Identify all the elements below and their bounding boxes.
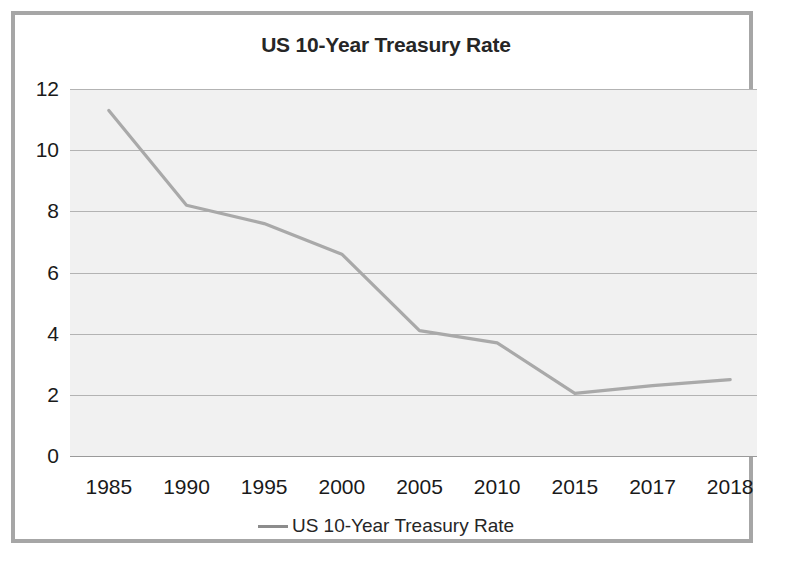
scanned-page: US 10-Year Treasury Rate 024681012 19851… bbox=[0, 0, 787, 567]
plot-area bbox=[70, 89, 769, 456]
x-axis-label-1990: 1990 bbox=[163, 475, 210, 499]
legend-label: US 10-Year Treasury Rate bbox=[292, 515, 514, 537]
legend-line-swatch-icon bbox=[258, 525, 288, 528]
x-axis-label-2017: 2017 bbox=[629, 475, 676, 499]
x-axis-label-2018: 2018 bbox=[707, 475, 754, 499]
x-axis-label-1985: 1985 bbox=[85, 475, 132, 499]
y-axis-label-0: 0 bbox=[15, 444, 59, 468]
page-margin-bottom bbox=[0, 549, 787, 567]
x-axis-label-2010: 2010 bbox=[474, 475, 521, 499]
series-line-chart bbox=[70, 89, 769, 456]
gridline-0 bbox=[70, 456, 769, 457]
chart-title: US 10-Year Treasury Rate bbox=[15, 33, 757, 57]
page-margin-right bbox=[757, 0, 787, 567]
x-axis-label-2015: 2015 bbox=[551, 475, 598, 499]
y-axis: 024681012 bbox=[15, 89, 59, 456]
y-axis-label-8: 8 bbox=[15, 199, 59, 223]
y-axis-label-4: 4 bbox=[15, 322, 59, 346]
y-axis-label-12: 12 bbox=[15, 77, 59, 101]
chart-legend: US 10-Year Treasury Rate bbox=[15, 515, 757, 537]
chart-frame: US 10-Year Treasury Rate 024681012 19851… bbox=[11, 11, 753, 543]
x-axis-label-2000: 2000 bbox=[318, 475, 365, 499]
series-polyline-us-10-year-treasury-rate bbox=[109, 110, 730, 393]
y-axis-label-6: 6 bbox=[15, 261, 59, 285]
x-axis: 198519901995200020052010201520172018 bbox=[70, 467, 769, 507]
y-axis-label-2: 2 bbox=[15, 383, 59, 407]
y-axis-label-10: 10 bbox=[15, 138, 59, 162]
x-axis-label-2005: 2005 bbox=[396, 475, 443, 499]
x-axis-label-1995: 1995 bbox=[241, 475, 288, 499]
